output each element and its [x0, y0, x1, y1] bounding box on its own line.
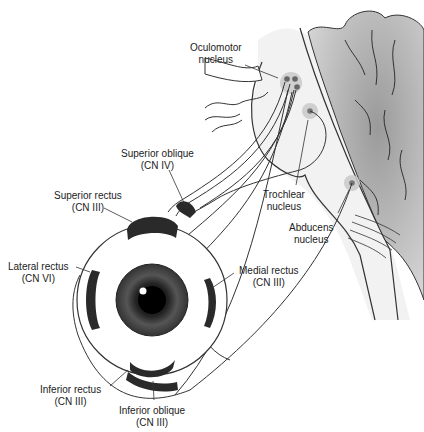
label-abducens-nucleus: Abducens nucleus [289, 222, 333, 246]
label-inferior-oblique: Inferior oblique (CN III) [119, 405, 185, 429]
label-line: Lateral rectus [8, 261, 69, 273]
label-line: nucleus [289, 234, 333, 246]
label-line: (CN VI) [8, 273, 69, 285]
label-oculomotor-nucleus: Oculomotor nucleus [190, 42, 242, 66]
label-line: (CN III) [54, 202, 122, 214]
label-medial-rectus: Medial rectus (CN III) [239, 265, 298, 289]
label-line: Inferior oblique [119, 405, 185, 417]
label-line: nucleus [190, 54, 242, 66]
label-line: (CN IV) [121, 160, 194, 172]
label-line: Oculomotor [190, 42, 242, 54]
label-line: Trochlear [263, 189, 305, 201]
label-line: Superior rectus [54, 190, 122, 202]
label-inferior-rectus: Inferior rectus (CN III) [40, 384, 101, 408]
diagram: Oculomotor nucleus Trochlear nucleus Abd… [0, 0, 424, 432]
superior-oblique-muscle [176, 201, 196, 218]
label-line: Medial rectus [239, 265, 298, 277]
label-trochlear-nucleus: Trochlear nucleus [263, 189, 305, 213]
label-line: nucleus [263, 201, 305, 213]
eyeball [77, 225, 227, 375]
oculomotor-nucleus [280, 72, 302, 94]
label-line: (CN III) [119, 417, 185, 429]
label-superior-oblique: Superior oblique (CN IV) [121, 148, 194, 172]
label-line: (CN III) [40, 396, 101, 408]
label-line: Inferior rectus [40, 384, 101, 396]
label-line: Abducens [289, 222, 333, 234]
label-line: Superior oblique [121, 148, 194, 160]
label-line: (CN III) [239, 277, 298, 289]
label-superior-rectus: Superior rectus (CN III) [54, 190, 122, 214]
label-lateral-rectus: Lateral rectus (CN VI) [8, 261, 69, 285]
